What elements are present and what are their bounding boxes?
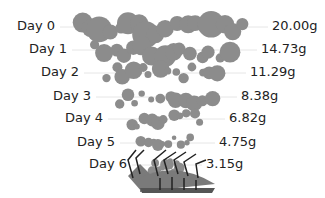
bubble — [122, 89, 135, 102]
bubble — [95, 44, 113, 62]
bubble — [103, 24, 118, 39]
row-label-day-6: Day 6 — [89, 157, 127, 170]
bubble — [139, 63, 148, 72]
bubble — [168, 158, 173, 163]
row-label-day-5: Day 5 — [77, 135, 115, 148]
bubble — [102, 74, 110, 82]
bubble — [196, 119, 203, 126]
bubble — [164, 140, 172, 148]
bubble — [148, 96, 154, 102]
row-label-day-1: Day 1 — [29, 42, 67, 55]
bubble — [159, 141, 165, 147]
bubble — [131, 100, 138, 107]
bubble — [201, 46, 214, 59]
bubble — [177, 141, 185, 149]
bubble — [178, 73, 188, 83]
bubble — [159, 115, 168, 124]
bubble — [145, 71, 152, 78]
bug-icon — [128, 150, 215, 193]
bubble — [190, 108, 200, 118]
row-value-day-0: 20.00g — [272, 19, 317, 32]
bubble — [220, 42, 241, 63]
row-value-day-1: 14.73g — [261, 42, 306, 55]
row-value-day-4: 6.82g — [229, 111, 266, 124]
bubble — [209, 65, 225, 81]
bubble — [188, 63, 197, 72]
row-label-day-4: Day 4 — [65, 111, 103, 124]
bubble — [115, 99, 124, 108]
row-value-day-5: 4.75g — [219, 135, 256, 148]
row-label-day-3: Day 3 — [53, 89, 91, 102]
bubble — [173, 68, 181, 76]
bubble — [164, 67, 171, 74]
bubbles — [73, 11, 249, 177]
bubble — [134, 124, 140, 130]
bubble — [205, 91, 220, 106]
row-value-day-3: 8.38g — [241, 89, 278, 102]
bubble — [186, 134, 194, 142]
row-value-day-2: 11.29g — [250, 65, 295, 78]
bubble — [236, 18, 248, 30]
bubble — [139, 90, 145, 96]
bubble — [155, 94, 165, 104]
bubble — [183, 47, 197, 61]
bubble — [172, 136, 177, 141]
row-value-day-6: 3.15g — [206, 157, 243, 170]
row-label-day-0: Day 0 — [17, 19, 55, 32]
bubble — [182, 109, 190, 117]
row-label-day-2: Day 2 — [41, 65, 79, 78]
